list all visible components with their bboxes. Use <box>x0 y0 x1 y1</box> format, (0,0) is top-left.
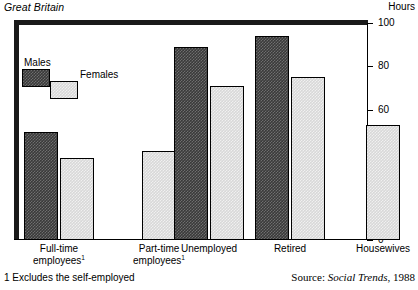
units-label: Hours <box>388 1 415 12</box>
y-axis-tick-label: 100 <box>378 18 395 28</box>
bar-females <box>60 158 94 240</box>
y-axis-tick <box>367 23 373 24</box>
chart-plot-area: 020406080100 <box>14 20 368 240</box>
frame-top-border <box>14 20 368 25</box>
y-axis-tick <box>367 240 373 241</box>
bar-males <box>255 36 289 240</box>
y-axis-tick <box>367 66 373 67</box>
source-publication: Social Trends <box>328 271 388 283</box>
bar-males <box>24 132 58 241</box>
bar-females <box>366 125 400 240</box>
source-note: Source: Social Trends, 1988 <box>291 271 415 283</box>
y-axis-tick-label: 80 <box>378 61 389 71</box>
legend-swatch-males <box>22 69 50 87</box>
y-axis-tick-label: 60 <box>378 105 389 115</box>
source-year: , 1988 <box>388 271 416 283</box>
bar-females <box>142 151 176 240</box>
y-axis-tick <box>367 110 373 111</box>
footnote: 1 Excludes the self-employed <box>4 272 135 283</box>
frame-left-border <box>14 20 19 240</box>
x-axis-label: Housewives <box>323 243 418 255</box>
legend-label-females: Females <box>80 70 118 80</box>
bar-males <box>174 47 208 240</box>
source-prefix: Source: <box>291 271 327 283</box>
bar-females <box>210 86 244 240</box>
legend-label-males: Males <box>24 58 51 68</box>
bar-females <box>291 77 325 240</box>
legend-swatch-females <box>50 81 78 99</box>
region-title: Great Britain <box>4 1 64 13</box>
